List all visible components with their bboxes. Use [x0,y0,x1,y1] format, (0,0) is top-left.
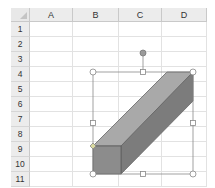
resize-handle-bottom-right[interactable] [190,171,196,177]
resize-handle-right[interactable] [191,121,196,126]
cube-front-face [93,146,121,174]
rotate-handle-icon[interactable] [140,50,146,56]
cube-shape[interactable] [0,0,215,188]
resize-handle-top[interactable] [141,70,146,75]
resize-handle-top-left[interactable] [90,69,96,75]
resize-handle-bottom[interactable] [141,172,146,177]
cube-body[interactable] [93,72,193,174]
spreadsheet-grid[interactable]: A B C D 1 2 3 4 5 6 7 8 9 10 11 [0,0,215,188]
resize-handle-bottom-left[interactable] [90,171,96,177]
resize-handle-top-right[interactable] [190,69,196,75]
resize-handle-left[interactable] [91,121,96,126]
